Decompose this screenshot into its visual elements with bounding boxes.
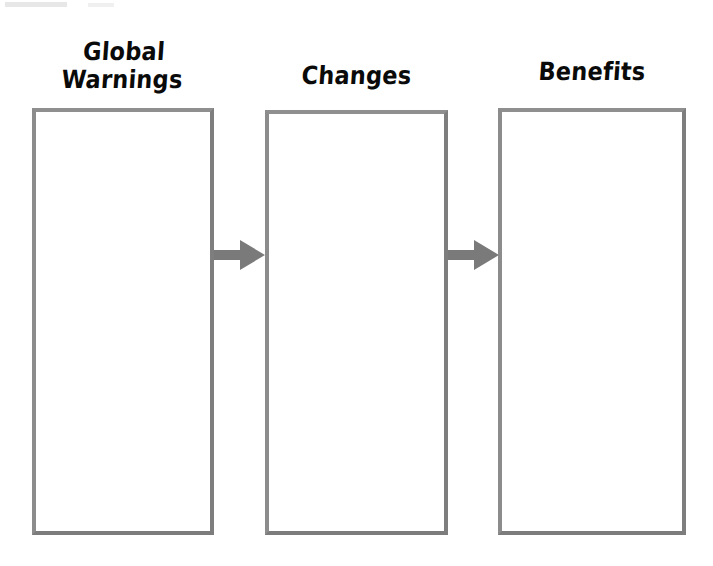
column-label-global-warnings: Global Warnings xyxy=(30,38,216,94)
scan-artifact-mark-secondary xyxy=(88,3,114,7)
column-box-global-warnings[interactable] xyxy=(32,108,214,535)
worksheet-canvas: Global Warnings Changes Benefits xyxy=(0,0,713,566)
arrow-right-changes-to-benefits xyxy=(448,238,500,272)
column-label-benefits: Benefits xyxy=(497,58,687,86)
arrow-right-warnings-to-changes xyxy=(214,238,266,272)
column-box-benefits[interactable] xyxy=(498,108,686,535)
column-box-changes[interactable] xyxy=(265,110,448,535)
column-label-changes: Changes xyxy=(264,62,449,90)
scan-artifact-mark xyxy=(5,2,67,7)
